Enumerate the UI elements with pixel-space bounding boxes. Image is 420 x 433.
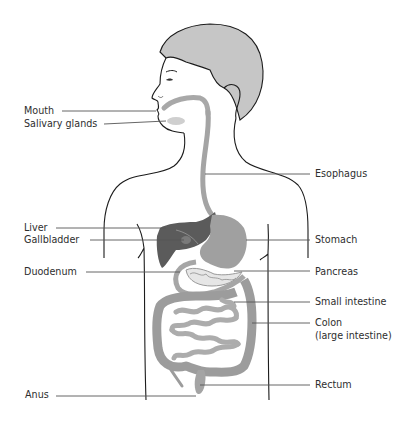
label-small-intestine: Small intestine <box>315 296 387 308</box>
label-anus: Anus <box>25 389 49 401</box>
torso-left <box>137 224 146 400</box>
label-esophagus: Esophagus <box>315 168 367 180</box>
label-mouth: Mouth <box>24 105 54 117</box>
label-salivary-glands: Salivary glands <box>24 118 97 130</box>
esophagus-organ <box>203 112 212 215</box>
small-intestine-organ <box>172 300 238 358</box>
label-colon-subtext: (large intestine) <box>315 330 392 342</box>
eye <box>166 79 173 81</box>
label-duodenum: Duodenum <box>24 266 77 278</box>
label-pancreas: Pancreas <box>315 266 358 278</box>
label-colon: Colon <box>315 317 342 329</box>
digestive-system-diagram: Mouth Salivary glands Liver Gallbladder … <box>0 0 420 433</box>
label-gallbladder: Gallbladder <box>24 234 79 246</box>
label-liver: Liver <box>24 222 48 234</box>
body-illustration <box>0 0 420 433</box>
pharynx <box>164 97 208 114</box>
salivary-glands-organ <box>167 117 185 125</box>
label-stomach: Stomach <box>315 234 357 246</box>
torso-right <box>260 224 269 400</box>
label-rectum: Rectum <box>315 379 352 391</box>
hair <box>160 24 263 120</box>
